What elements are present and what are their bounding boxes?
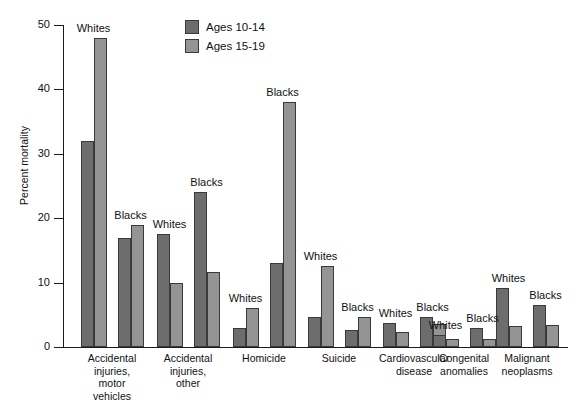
y-tick-mark — [54, 347, 63, 348]
y-tick-label: 50 — [20, 19, 50, 30]
x-axis-line — [63, 347, 568, 348]
race-annotation-whites: Whites — [77, 22, 111, 34]
x-tick-label: Malignant neoplasms — [479, 352, 575, 377]
legend-label-ages-15-19: Ages 15-19 — [206, 40, 265, 52]
race-annotation-blacks: Blacks — [529, 289, 561, 301]
legend-swatch-icon-ages-10-14 — [185, 20, 199, 34]
bar — [94, 38, 107, 347]
bar — [509, 326, 522, 347]
bar — [345, 330, 358, 347]
bar-chart: Percent mortality 01020304050 WhitesBlac… — [0, 0, 583, 416]
y-tick-label: 10 — [20, 277, 50, 288]
bar — [81, 141, 94, 347]
bar — [170, 283, 183, 347]
bar — [207, 272, 220, 347]
y-tick-mark — [54, 283, 63, 284]
race-annotation-blacks: Blacks — [114, 209, 146, 221]
race-annotation-whites: Whites — [304, 250, 338, 262]
bar — [483, 339, 496, 347]
bar — [194, 192, 207, 347]
race-annotation-whites: Whites — [379, 307, 413, 319]
bar — [308, 317, 321, 347]
race-annotation-blacks: Blacks — [466, 312, 498, 324]
y-tick-label: 0 — [20, 341, 50, 352]
bar — [270, 263, 283, 347]
y-tick-label: 20 — [20, 212, 50, 223]
bar — [118, 238, 131, 347]
bar — [396, 332, 409, 347]
bar — [533, 305, 546, 347]
race-annotation-blacks: Blacks — [416, 301, 448, 313]
legend-label-ages-10-14: Ages 10-14 — [206, 21, 265, 33]
bar — [157, 234, 170, 347]
bar — [470, 328, 483, 347]
bar — [546, 325, 559, 347]
y-tick-mark — [54, 25, 63, 26]
legend-swatch-icon-ages-15-19 — [185, 39, 199, 53]
plot-area — [63, 25, 568, 347]
bar — [446, 339, 459, 347]
race-annotation-blacks: Blacks — [190, 176, 222, 188]
y-tick-label: 30 — [20, 148, 50, 159]
legend-item-ages-15-19: Ages 15-19 — [185, 37, 265, 54]
legend: Ages 10-14 Ages 15-19 — [185, 18, 265, 56]
race-annotation-whites: Whites — [429, 319, 463, 331]
y-tick-label: 40 — [20, 83, 50, 94]
bar — [233, 328, 246, 347]
race-annotation-whites: Whites — [492, 272, 526, 284]
bar — [433, 335, 446, 347]
bar — [283, 102, 296, 347]
y-tick-mark — [54, 89, 63, 90]
y-tick-mark — [54, 218, 63, 219]
bar — [131, 225, 144, 347]
y-tick-mark — [54, 154, 63, 155]
bar — [321, 266, 334, 347]
race-annotation-blacks: Blacks — [266, 86, 298, 98]
bar — [383, 323, 396, 347]
race-annotation-whites: Whites — [229, 292, 263, 304]
race-annotation-whites: Whites — [153, 218, 187, 230]
race-annotation-blacks: Blacks — [341, 301, 373, 313]
legend-item-ages-10-14: Ages 10-14 — [185, 18, 265, 35]
bar — [246, 308, 259, 347]
bar — [358, 317, 371, 347]
